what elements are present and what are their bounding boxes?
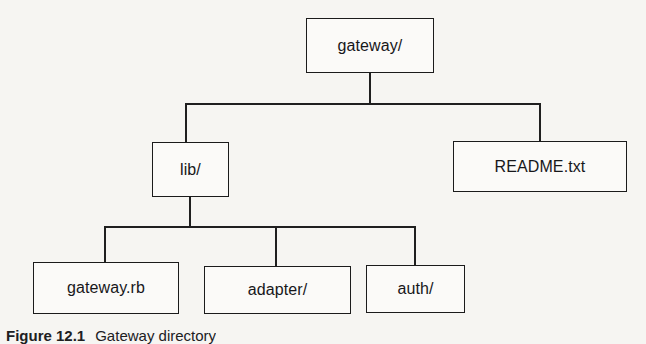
node-gateway: gateway/ <box>306 18 434 73</box>
connector-gateway-stem <box>369 73 371 105</box>
node-adapter: adapter/ <box>204 266 351 314</box>
node-lib: lib/ <box>152 142 229 197</box>
node-auth: auth/ <box>366 265 465 313</box>
connector-gateway-to-readme <box>539 103 541 142</box>
node-gateway-rb-label: gateway.rb <box>67 280 145 296</box>
node-lib-label: lib/ <box>180 162 201 178</box>
node-readme-txt: README.txt <box>453 141 627 192</box>
node-gateway-label: gateway/ <box>338 38 403 54</box>
node-gateway-rb: gateway.rb <box>33 262 179 314</box>
connector-lib-to-auth <box>414 226 416 266</box>
connector-lib-to-adapter <box>275 226 277 267</box>
figure-caption: Figure 12.1Gateway directory <box>6 327 216 344</box>
node-readme-txt-label: README.txt <box>495 159 586 175</box>
connector-gateway-to-lib <box>185 103 187 143</box>
connector-lib-to-gateway-rb <box>104 226 106 263</box>
connector-gateway-bus <box>185 103 541 105</box>
figure-caption-text: Gateway directory <box>95 327 216 344</box>
node-auth-label: auth/ <box>397 281 433 297</box>
node-adapter-label: adapter/ <box>248 282 308 298</box>
connector-lib-bus <box>104 226 416 228</box>
figure-caption-number: Figure 12.1 <box>6 327 85 344</box>
connector-lib-stem <box>189 197 191 228</box>
